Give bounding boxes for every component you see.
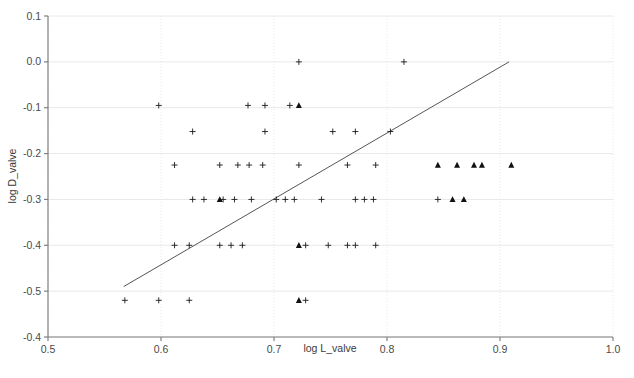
regression-line bbox=[124, 62, 509, 287]
data-point-plus bbox=[262, 129, 268, 135]
data-point-plus bbox=[217, 242, 223, 248]
data-points-plus bbox=[122, 59, 441, 303]
x-tick-label: 0.9 bbox=[493, 343, 508, 355]
data-point-plus bbox=[246, 162, 252, 168]
data-point-plus bbox=[401, 59, 407, 65]
y-axis-title: log D_valve bbox=[6, 148, 18, 203]
data-point-plus bbox=[303, 242, 309, 248]
data-point-plus bbox=[330, 129, 336, 135]
data-point-triangle bbox=[435, 162, 441, 168]
y-tick-label: -0.5 bbox=[23, 285, 41, 297]
data-point-plus bbox=[373, 242, 379, 248]
data-point-plus bbox=[228, 242, 234, 248]
y-tick-labels: 0.10.0-0.1-0.2-0.3-0.4-0.5-0.4 bbox=[23, 10, 41, 343]
data-point-triangle bbox=[471, 162, 477, 168]
data-point-plus bbox=[296, 162, 302, 168]
data-point-plus bbox=[186, 297, 192, 303]
x-tick-label: 0.5 bbox=[41, 343, 56, 355]
data-point-plus bbox=[172, 242, 178, 248]
grid-lines bbox=[48, 16, 613, 337]
data-point-plus bbox=[318, 196, 324, 202]
data-point-plus bbox=[282, 196, 288, 202]
data-point-plus bbox=[239, 242, 245, 248]
data-point-plus bbox=[435, 196, 441, 202]
y-tick-label: -0.1 bbox=[23, 101, 41, 113]
data-point-plus bbox=[201, 196, 207, 202]
data-point-plus bbox=[344, 162, 350, 168]
data-point-plus bbox=[231, 196, 237, 202]
axis-lines bbox=[48, 16, 613, 337]
data-point-plus bbox=[352, 242, 358, 248]
data-point-triangle bbox=[479, 162, 485, 168]
y-tick-label: -0.4 bbox=[23, 239, 41, 251]
data-point-triangle bbox=[454, 162, 460, 168]
data-point-plus bbox=[303, 297, 309, 303]
data-point-triangle bbox=[296, 102, 302, 108]
data-point-plus bbox=[217, 162, 223, 168]
data-point-plus bbox=[122, 297, 128, 303]
data-point-plus bbox=[291, 196, 297, 202]
data-point-plus bbox=[273, 196, 279, 202]
data-point-triangle bbox=[296, 297, 302, 303]
x-tick-label: 1.0 bbox=[606, 343, 621, 355]
data-point-plus bbox=[260, 162, 266, 168]
data-point-plus bbox=[325, 242, 331, 248]
y-tick-label: -0.2 bbox=[23, 147, 41, 159]
data-point-plus bbox=[373, 162, 379, 168]
data-point-plus bbox=[248, 196, 254, 202]
data-point-plus bbox=[344, 242, 350, 248]
figure-caption-partial bbox=[0, 368, 634, 378]
plot-canvas: 0.50.60.70.80.91.0 0.10.0-0.1-0.2-0.3-0.… bbox=[0, 0, 634, 378]
x-tick-label: 0.7 bbox=[267, 343, 282, 355]
scatter-plot-figure: 0.50.60.70.80.91.0 0.10.0-0.1-0.2-0.3-0.… bbox=[0, 0, 634, 378]
x-tick-label: 0.8 bbox=[380, 343, 395, 355]
data-point-plus bbox=[190, 129, 196, 135]
data-point-plus bbox=[235, 162, 241, 168]
data-point-plus bbox=[370, 196, 376, 202]
x-axis-title: log L_valve bbox=[303, 342, 356, 354]
data-point-plus bbox=[172, 162, 178, 168]
y-tick-label: -0.4 bbox=[23, 331, 41, 343]
y-tick-label: 0.1 bbox=[26, 10, 41, 22]
x-tick-label: 0.6 bbox=[154, 343, 169, 355]
data-point-plus bbox=[352, 129, 358, 135]
y-tick-label: -0.3 bbox=[23, 193, 41, 205]
data-point-plus bbox=[352, 196, 358, 202]
axis-tick-marks bbox=[44, 16, 613, 341]
data-point-plus bbox=[190, 196, 196, 202]
data-point-triangle bbox=[508, 162, 514, 168]
data-points-triangle bbox=[217, 102, 515, 303]
data-point-plus bbox=[361, 196, 367, 202]
data-point-plus bbox=[296, 59, 302, 65]
y-tick-label: 0.0 bbox=[26, 55, 41, 67]
